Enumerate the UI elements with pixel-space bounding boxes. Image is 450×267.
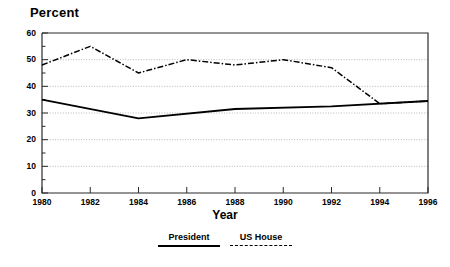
x-tick-label-1988: 1988: [215, 197, 255, 207]
y-tick-label-50: 50: [14, 54, 36, 64]
legend-swatch-solid-line: [158, 245, 220, 250]
x-axis-title: Year: [0, 208, 450, 222]
chart-figure: Percent 0102030405060 198019821984198619…: [0, 0, 450, 267]
data-series-group: [42, 46, 428, 118]
y-tick-label-30: 30: [14, 108, 36, 118]
y-tick-label-60: 60: [14, 28, 36, 38]
x-tick-label-1996: 1996: [408, 197, 448, 207]
series-line-president: [42, 100, 428, 119]
legend-label-president: President: [168, 232, 209, 242]
legend-item-us-house: US House: [230, 232, 292, 249]
y-tick-label-40: 40: [14, 81, 36, 91]
legend-label-us-house: US House: [240, 232, 283, 242]
legend-item-president: President: [158, 232, 220, 250]
x-tick-label-1982: 1982: [70, 197, 110, 207]
x-tick-label-1990: 1990: [263, 197, 303, 207]
x-tick-label-1994: 1994: [360, 197, 400, 207]
legend-swatch-dashed-line: [230, 245, 292, 249]
chart-legend: President US House: [0, 232, 450, 250]
x-tick-label-1992: 1992: [312, 197, 352, 207]
y-tick-label-20: 20: [14, 134, 36, 144]
gridlines: [42, 60, 428, 167]
y-tick-label-0: 0: [14, 188, 36, 198]
x-axis-ticks: [42, 187, 428, 193]
x-tick-label-1986: 1986: [167, 197, 207, 207]
y-tick-label-10: 10: [14, 161, 36, 171]
x-tick-label-1984: 1984: [119, 197, 159, 207]
x-tick-label-1980: 1980: [22, 197, 62, 207]
plot-area-svg: [0, 0, 450, 267]
y-axis-ticks: [42, 33, 48, 193]
series-line-us-house: [42, 46, 428, 103]
